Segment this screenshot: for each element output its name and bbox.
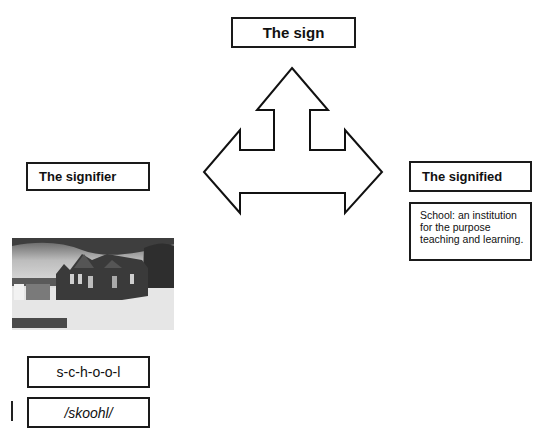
signified-label: The signified bbox=[422, 169, 502, 184]
school-building-photo bbox=[12, 238, 174, 330]
signifier-box: The signifier bbox=[26, 162, 150, 191]
sign-label: The sign bbox=[263, 24, 325, 41]
signified-description: School: an institution for the purpose t… bbox=[420, 209, 526, 245]
signified-box: The signified bbox=[409, 161, 532, 192]
spelling-text: s-c-h-o-o-l bbox=[57, 364, 121, 380]
text-cursor bbox=[11, 401, 13, 421]
spelling-box: s-c-h-o-o-l bbox=[27, 356, 150, 388]
sign-box: The sign bbox=[231, 17, 356, 48]
signified-description-box: School: an institution for the purpose t… bbox=[409, 202, 532, 261]
signifier-label: The signifier bbox=[39, 169, 116, 184]
phonetic-text: /skoohl/ bbox=[64, 405, 112, 421]
phonetic-box: /skoohl/ bbox=[27, 397, 150, 428]
